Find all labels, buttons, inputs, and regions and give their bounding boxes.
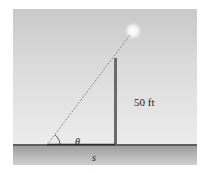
- diagram-panel: 50 ft θ s: [13, 9, 197, 165]
- pole: [114, 58, 117, 145]
- angle-arc: [55, 135, 60, 145]
- light-ray: [47, 35, 130, 145]
- light-source-icon: [124, 22, 142, 40]
- pole-height-label: 50 ft: [134, 96, 154, 108]
- shadow-length-label: s: [92, 152, 96, 163]
- scene-graphic: [13, 9, 197, 165]
- angle-label: θ: [75, 136, 80, 147]
